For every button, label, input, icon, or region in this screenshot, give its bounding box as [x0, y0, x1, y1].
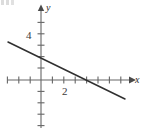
y-axis-label: y: [46, 3, 50, 13]
plot-canvas: [0, 0, 141, 128]
y-axis-arrowhead: [38, 5, 44, 12]
y-axis-group: [38, 5, 44, 129]
y-tick-label-4: 4: [26, 30, 32, 41]
coordinate-plane-figure: y x 4 2: [0, 0, 141, 128]
x-tick-label-2: 2: [62, 86, 68, 97]
x-axis-label: x: [135, 75, 139, 85]
x-axis-group: [8, 77, 136, 84]
